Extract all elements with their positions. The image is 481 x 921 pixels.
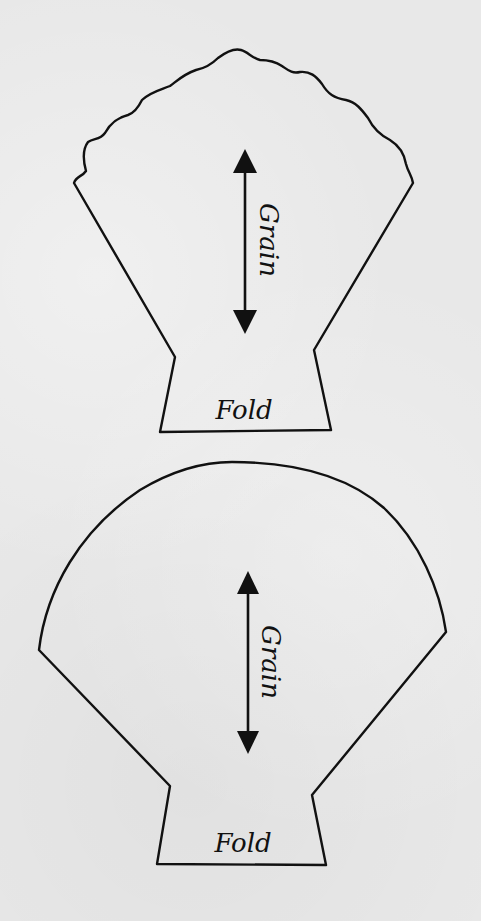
round-shell-outline xyxy=(39,462,446,865)
arrow-up-icon xyxy=(233,149,257,173)
arrow-down-icon xyxy=(237,731,259,754)
pattern-diagram xyxy=(0,0,481,921)
fold-label: Fold xyxy=(214,830,271,856)
arrow-down-icon xyxy=(233,310,257,334)
fold-label: Fold xyxy=(215,397,272,423)
arrow-up-icon xyxy=(237,571,259,594)
scalloped-shell-outline xyxy=(74,49,413,432)
grain-label: Grain xyxy=(258,625,284,699)
grain-label: Grain xyxy=(256,203,282,277)
